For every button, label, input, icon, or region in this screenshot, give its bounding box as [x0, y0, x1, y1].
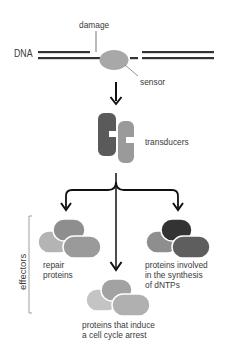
arrow-down-icon: [111, 82, 122, 104]
effectors-bracket: [29, 216, 32, 313]
arrest-label-line2: a cell cycle arrest: [82, 330, 147, 340]
damage-label: damage: [79, 20, 109, 30]
effectors-label: effectors: [17, 254, 28, 290]
repair-proteins-blob: [38, 219, 101, 258]
branch-right: [116, 182, 178, 208]
transducers-shape: [98, 113, 134, 163]
sensor-protein: [100, 50, 129, 70]
sensor-label: sensor: [140, 77, 165, 87]
branch-left: [66, 182, 116, 208]
sensor-pointer: [125, 65, 138, 76]
dntp-proteins-blob: [146, 219, 210, 258]
repair-label-line2: proteins: [43, 270, 73, 280]
arrest-proteins-blob: [86, 279, 150, 316]
dntp-label-line3: of dNTPs: [145, 280, 180, 290]
diagram-canvas: [0, 0, 233, 345]
dna-label: DNA: [14, 49, 33, 59]
transducers-label: transducers: [145, 137, 189, 147]
